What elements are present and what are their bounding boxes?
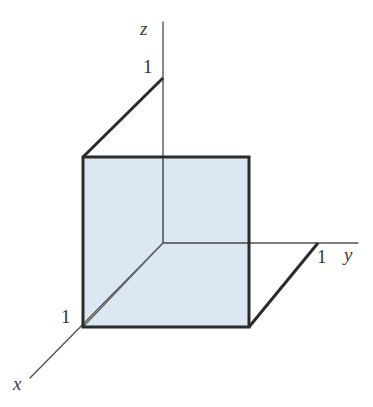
figure-canvas: z y x 1 1 1 [0, 0, 373, 407]
z-unit-tick-label: 1 [143, 56, 153, 77]
connector-y-to-square [249, 243, 318, 327]
y-axis-label: y [342, 244, 353, 265]
z-axis-label: z [139, 18, 148, 39]
connector-z-to-square [83, 78, 163, 157]
x-unit-tick-label: 1 [61, 306, 71, 327]
x-axis-label: x [12, 373, 22, 394]
coordinate-axes-figure: z y x 1 1 1 [0, 0, 373, 407]
y-unit-tick-label: 1 [317, 246, 327, 267]
